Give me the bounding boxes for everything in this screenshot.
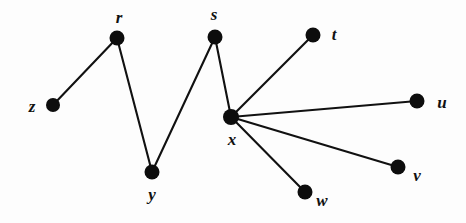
graph-node-x[interactable] [223, 109, 239, 125]
graph-node-label-s: s [211, 6, 218, 23]
graph-node-label-v: v [413, 167, 421, 184]
graph-node-s[interactable] [208, 30, 223, 45]
graph-edge-t-x [231, 35, 313, 117]
graph-edge-r-y [117, 38, 152, 172]
graph-edge-x-u [231, 101, 417, 117]
graph-node-label-u: u [437, 94, 446, 111]
graph-canvas [0, 0, 466, 223]
graph-figure: zrysxtuvw [0, 0, 466, 223]
graph-node-label-w: w [316, 192, 327, 209]
graph-node-r[interactable] [110, 31, 125, 46]
graph-node-label-x: x [228, 131, 237, 148]
graph-node-u[interactable] [410, 94, 425, 109]
graph-node-z[interactable] [46, 98, 60, 112]
graph-node-label-t: t [332, 26, 337, 43]
graph-node-w[interactable] [298, 185, 313, 200]
graph-node-label-y: y [148, 186, 156, 203]
graph-node-v[interactable] [391, 160, 406, 175]
graph-edge-y-s [152, 37, 215, 172]
graph-node-t[interactable] [306, 28, 321, 43]
graph-edge-z-r [53, 38, 117, 105]
graph-node-y[interactable] [145, 165, 160, 180]
graph-node-label-r: r [116, 9, 123, 26]
graph-edge-s-x [215, 37, 231, 117]
graph-node-label-z: z [29, 98, 36, 115]
